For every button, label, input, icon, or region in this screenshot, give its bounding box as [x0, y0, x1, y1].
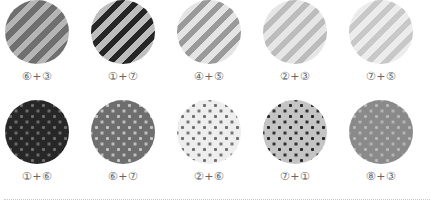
stripe-circle [91, 0, 155, 64]
swatch-label: ④+⑤ [166, 70, 252, 83]
swatch-label: ⑦+① [252, 170, 338, 183]
swatch-stripe-2: ①+⑦ [80, 0, 166, 83]
dotted-divider [4, 199, 430, 200]
swatch-dot-2: ⑥+⑦ [80, 100, 166, 183]
swatch-label: ⑥+③ [0, 70, 80, 83]
dot-circle [349, 100, 413, 164]
swatch-dot-1: ①+⑥ [0, 100, 80, 183]
swatch-label: ①+⑥ [0, 170, 80, 183]
swatch-dot-3: ②+⑥ [166, 100, 252, 183]
dot-circle [91, 100, 155, 164]
swatch-stripe-4: ②+③ [252, 0, 338, 83]
stripe-circle [5, 0, 69, 64]
swatch-dot-4: ⑦+① [252, 100, 338, 183]
swatch-label: ②+③ [252, 70, 338, 83]
swatch-label: ⑦+⑤ [338, 70, 424, 83]
swatch-label: ⑥+⑦ [80, 170, 166, 183]
swatch-stripe-3: ④+⑤ [166, 0, 252, 83]
swatch-label: ②+⑥ [166, 170, 252, 183]
swatch-stripe-1: ⑥+③ [0, 0, 80, 83]
stripe-circle [177, 0, 241, 64]
dot-circle [5, 100, 69, 164]
stripe-circle [263, 0, 327, 64]
swatch-stripe-5: ⑦+⑤ [338, 0, 424, 83]
swatch-label: ⑧+③ [338, 170, 424, 183]
dot-circle [263, 100, 327, 164]
swatch-dot-5: ⑧+③ [338, 100, 424, 183]
swatch-label: ①+⑦ [80, 70, 166, 83]
stripe-circle [349, 0, 413, 64]
dot-circle [177, 100, 241, 164]
